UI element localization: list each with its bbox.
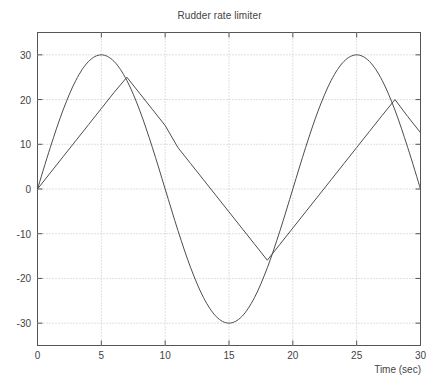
y-tick-label: 20 <box>0 94 31 105</box>
x-tick-label: 30 <box>415 350 426 361</box>
y-tick-label: -30 <box>0 318 31 329</box>
x-tick-label: 25 <box>351 350 362 361</box>
x-tick-label: 15 <box>223 350 234 361</box>
x-tick-label: 0 <box>35 350 41 361</box>
y-tick-label: 10 <box>0 139 31 150</box>
chart-title: Rudder rate limiter <box>0 10 439 21</box>
x-tick-label: 10 <box>160 350 171 361</box>
x-tick-label: 20 <box>287 350 298 361</box>
figure-canvas: Rudder rate limiter -30-20-100102030 051… <box>0 0 439 389</box>
y-tick-label: 0 <box>0 184 31 195</box>
x-axis-label: Time (sec) <box>374 364 421 375</box>
plot-area <box>0 0 439 389</box>
y-tick-label: 30 <box>0 49 31 60</box>
y-tick-label: -10 <box>0 228 31 239</box>
x-tick-label: 5 <box>99 350 105 361</box>
y-tick-label: -20 <box>0 273 31 284</box>
